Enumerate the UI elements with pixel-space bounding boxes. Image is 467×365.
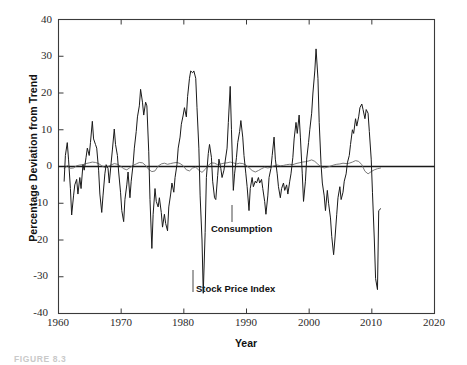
- series-stock-price-index: [64, 49, 380, 293]
- chart-plot-area: [0, 0, 467, 365]
- figure-container: Percentage Deviation from Trend Year 40 …: [0, 0, 467, 365]
